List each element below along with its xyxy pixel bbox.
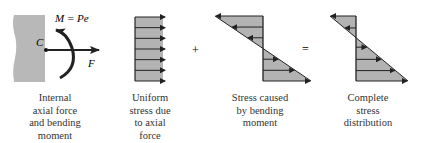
caption-internal-forces: Internal axial force and bending moment bbox=[5, 92, 105, 142]
force-label: F bbox=[87, 57, 95, 69]
caption-bending-stress: Stress caused by bending moment bbox=[208, 92, 312, 130]
bending-stress-panel bbox=[215, 16, 311, 81]
plus-operator: + bbox=[192, 43, 199, 57]
caption-complete-stress: Complete stress distribution bbox=[316, 92, 420, 130]
caption-line: force bbox=[100, 130, 200, 143]
caption-line: Uniform bbox=[100, 92, 200, 105]
equals-operator: = bbox=[302, 42, 309, 56]
uniform-stress-panel bbox=[135, 17, 165, 81]
moment-arrow bbox=[56, 30, 74, 78]
caption-line: moment bbox=[208, 117, 312, 130]
caption-line: and bending bbox=[5, 117, 105, 130]
caption-line: axial force bbox=[5, 105, 105, 118]
caption-line: moment bbox=[5, 130, 105, 143]
member-section bbox=[13, 15, 45, 82]
moment-label: M = Pe bbox=[54, 12, 89, 24]
caption-uniform-stress: Uniform stress due to axial force bbox=[100, 92, 200, 142]
caption-line: by bending bbox=[208, 105, 312, 118]
caption-line: stress bbox=[316, 105, 420, 118]
caption-line: distribution bbox=[316, 117, 420, 130]
centroid-label: C bbox=[36, 36, 44, 48]
complete-stress-panel bbox=[330, 16, 408, 81]
caption-line: to axial bbox=[100, 117, 200, 130]
caption-line: stress due bbox=[100, 105, 200, 118]
caption-line: Internal bbox=[5, 92, 105, 105]
internal-forces-panel: C M = Pe F bbox=[13, 12, 99, 82]
caption-line: Stress caused bbox=[208, 92, 312, 105]
caption-line: Complete bbox=[316, 92, 420, 105]
